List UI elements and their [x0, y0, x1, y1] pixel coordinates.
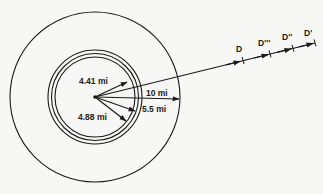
label-4-41mi: 4.41 mi: [79, 76, 108, 86]
arrow-D1: [299, 44, 313, 47]
label-D: D: [236, 44, 242, 54]
label-D-prime: D': [304, 28, 312, 38]
radius-arrow-5-5mi: [95, 97, 135, 111]
arrow-D3: [254, 55, 268, 58]
label-4-88mi: 4.88 mi: [78, 112, 107, 122]
arrow-D: [226, 61, 240, 64]
label-10mi: 10 mi: [146, 88, 168, 98]
label-D-double-prime: D'': [282, 32, 292, 42]
arrow-D2: [277, 49, 291, 52]
label-D-triple-prime: D''': [258, 38, 270, 48]
distance-diagram: 4.41 mi 10 mi 5.5 mi 4.88 mi D D''' D'' …: [0, 0, 323, 194]
label-5-5mi: 5.5 mi: [142, 104, 166, 114]
